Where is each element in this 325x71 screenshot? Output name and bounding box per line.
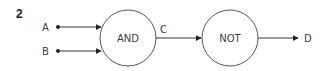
- input-b-label: B: [42, 46, 49, 57]
- and-gate-label: AND: [117, 33, 139, 44]
- not-gate-label: NOT: [219, 33, 241, 44]
- logic-diagram: 2 A B AND C NOT D: [0, 0, 325, 71]
- output-d-label: D: [304, 33, 312, 44]
- input-a-label: A: [42, 22, 49, 33]
- intermediate-c-label: C: [160, 24, 167, 35]
- figure-number: 2: [16, 7, 23, 21]
